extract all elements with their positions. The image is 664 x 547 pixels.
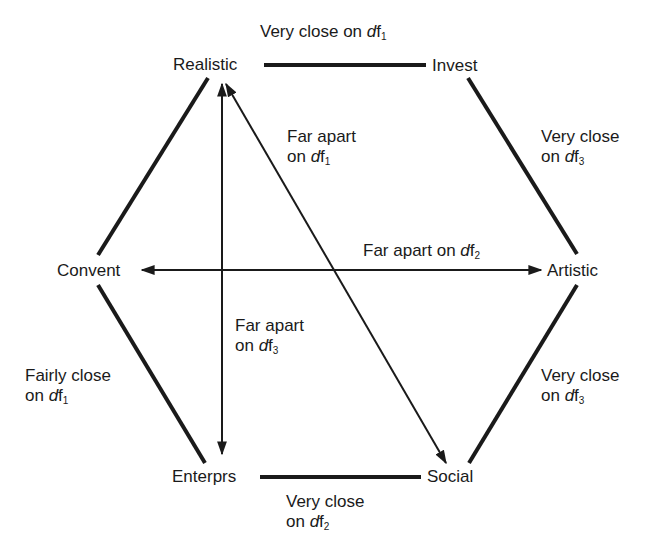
node-realistic: Realistic xyxy=(173,55,237,75)
node-social: Social xyxy=(427,467,473,487)
node-convent: Convent xyxy=(57,261,120,281)
label-artistic-social: Very close on df3 xyxy=(541,366,619,411)
label-realistic-invest: Very close on df1 xyxy=(260,22,387,47)
edge-convent-realistic xyxy=(98,78,208,255)
label-realistic-enterprs: Far apart on df3 xyxy=(235,316,304,361)
label-convent-artistic: Far apart on df2 xyxy=(363,241,480,266)
node-invest: Invest xyxy=(432,56,477,76)
node-enterprs: Enterprs xyxy=(172,467,236,487)
node-artistic: Artistic xyxy=(547,261,598,281)
edge-convent-enterprs xyxy=(98,285,205,463)
label-convent-enterprs: Fairly close on df1 xyxy=(25,366,111,411)
label-realistic-social: Far apart on df1 xyxy=(287,127,356,172)
label-invest-artistic: Very close on df3 xyxy=(541,127,619,172)
label-enterprs-social: Very close on df2 xyxy=(286,492,364,537)
